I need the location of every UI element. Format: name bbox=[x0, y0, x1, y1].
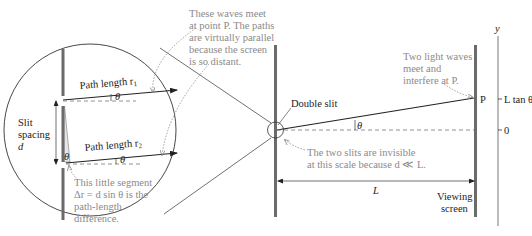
svg-text:interfere at P.: interfere at P. bbox=[403, 75, 459, 86]
slit-spacing-symbol: d bbox=[18, 141, 24, 152]
segment-note: This little segment Δr = d sin θ is the … bbox=[74, 177, 152, 224]
svg-text:because the screen: because the screen bbox=[189, 44, 268, 55]
magnifier-line-bottom bbox=[164, 138, 271, 214]
slit-spacing-label-2: spacing bbox=[18, 129, 51, 140]
svg-text:Δr = d sin θ is the: Δr = d sin θ is the bbox=[74, 189, 149, 200]
slit-spacing-label-1: Slit bbox=[18, 117, 33, 128]
y-axis-label: y bbox=[494, 23, 500, 34]
theta-r2-label: θ bbox=[120, 154, 125, 165]
svg-text:This little segment: This little segment bbox=[74, 177, 152, 188]
slit-wall-top bbox=[62, 49, 65, 96]
double-slit-barrier bbox=[274, 45, 277, 217]
svg-text:These waves meet: These waves meet bbox=[189, 8, 266, 19]
viewing-screen-label-1: Viewing bbox=[437, 191, 473, 202]
invisible-slits-callout bbox=[285, 140, 305, 150]
svg-text:difference.: difference. bbox=[74, 213, 119, 224]
viewing-screen-label-2: screen bbox=[441, 203, 469, 214]
svg-text:path-length: path-length bbox=[74, 201, 123, 212]
slit-wall-bottom bbox=[62, 168, 65, 220]
path-r2-label: Path length r2 bbox=[84, 137, 143, 155]
svg-text:at point P. The paths: at point P. The paths bbox=[189, 20, 274, 31]
svg-text:at this scale because d ≪ L.: at this scale because d ≪ L. bbox=[307, 159, 426, 170]
theta-r1-label: θ bbox=[115, 91, 120, 102]
parallel-paths-note: These waves meet at point P. The paths a… bbox=[189, 8, 274, 67]
svg-text:meet and: meet and bbox=[403, 63, 442, 74]
double-slit-label: Double slit bbox=[291, 98, 337, 109]
svg-text:are virtually parallel: are virtually parallel bbox=[189, 32, 274, 43]
svg-text:Two light waves: Two light waves bbox=[403, 51, 472, 62]
light-waves-note: Two light waves meet and interfere at P. bbox=[403, 51, 472, 86]
path-r1-label: Path length r1 bbox=[79, 75, 138, 93]
axis-tick-ltan-theta: L tan θ bbox=[504, 94, 532, 105]
viewing-screen bbox=[474, 45, 477, 217]
distance-L-label: L bbox=[372, 185, 379, 196]
svg-text:is so distant.: is so distant. bbox=[189, 56, 241, 67]
invisible-slits-note: The two slits are invisible at this scal… bbox=[307, 147, 426, 170]
point-p-label: P bbox=[480, 94, 486, 105]
double-slit-diagram: Path length r1 θ Path length r2 θ θ Slit… bbox=[0, 0, 532, 236]
theta-wedge-label: θ bbox=[64, 151, 69, 162]
axis-tick-zero: 0 bbox=[504, 125, 509, 136]
svg-text:The two slits are invisible: The two slits are invisible bbox=[307, 147, 416, 158]
theta-main-label: θ bbox=[357, 120, 362, 131]
